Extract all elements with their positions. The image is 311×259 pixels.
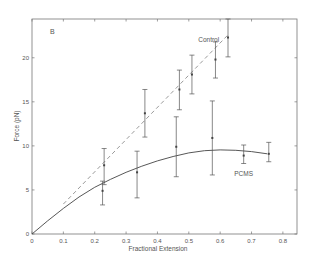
panel-label: B: [50, 28, 55, 35]
control-fit-line: [63, 35, 228, 204]
y-tick-label: 15: [22, 99, 29, 105]
series-control: Control: [63, 19, 230, 204]
data-point: [211, 137, 213, 139]
data-point: [178, 88, 180, 90]
series-label-control: Control: [198, 36, 220, 43]
data-point: [175, 146, 177, 148]
x-tick-label: 0.7: [247, 238, 256, 244]
x-tick-label: 0.8: [279, 238, 288, 244]
x-axis-label: Fractional Extension: [129, 245, 188, 252]
series-label-pcms: PCMS: [234, 170, 253, 177]
data-point: [102, 190, 104, 192]
data-point: [268, 153, 270, 155]
data-point: [227, 37, 229, 39]
data-point: [144, 112, 146, 114]
x-tick-label: 0.3: [122, 238, 131, 244]
x-tick-label: 0.2: [91, 238, 100, 244]
series-pcms: PCMS: [32, 101, 271, 234]
x-tick-label: 0.6: [216, 238, 225, 244]
y-axis-label: Force (pN): [13, 110, 21, 141]
y-tick-label: 20: [22, 55, 29, 61]
axis-ticks: 00.10.20.30.40.50.60.70.805101520: [22, 19, 297, 244]
data-point: [191, 74, 193, 76]
y-tick-label: 0: [26, 231, 30, 237]
x-tick-label: 0.5: [185, 238, 194, 244]
pcms-fit-curve: [32, 150, 267, 234]
force-extension-chart: 00.10.20.30.40.50.60.70.805101520 Contro…: [0, 0, 311, 259]
data-point: [214, 59, 216, 61]
data-series: ControlPCMS: [32, 19, 271, 234]
data-point: [136, 171, 138, 173]
x-tick-label: 0: [30, 238, 34, 244]
y-tick-label: 10: [22, 143, 29, 149]
data-point: [243, 155, 245, 157]
x-tick-label: 0.1: [59, 238, 68, 244]
x-tick-label: 0.4: [153, 238, 162, 244]
y-tick-label: 5: [26, 187, 30, 193]
data-point: [103, 164, 105, 166]
